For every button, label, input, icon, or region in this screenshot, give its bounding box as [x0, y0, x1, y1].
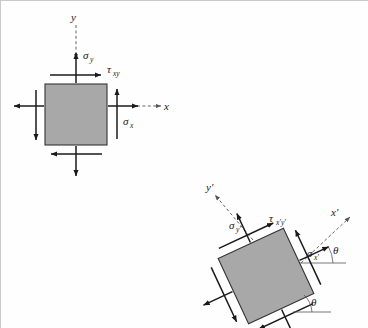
x-prime-axis-label: x′	[330, 206, 339, 218]
tau-x-prime-y-prime-label: τ	[269, 212, 274, 224]
sigma-x-subscript: x	[129, 121, 134, 130]
sigma-y-prime-label: σ	[229, 219, 235, 231]
unrotated-stress-element: y x σ y σ x τ xy	[14, 11, 169, 176]
tau-xy-subscript: xy	[112, 69, 120, 78]
sigma-x-prime-label: σ	[307, 247, 313, 259]
stress-element-figure: y x σ y σ x τ xy	[1, 1, 368, 328]
y-prime-axis-line	[215, 195, 253, 240]
sigma-y-label: σ	[83, 49, 89, 61]
figure-canvas: y x σ y σ x τ xy	[0, 0, 368, 328]
tau-xy-label: τ	[107, 63, 112, 75]
lower-theta-label: θ	[311, 296, 317, 308]
sigma-x-label: σ	[123, 115, 129, 127]
stress-element-square	[45, 84, 107, 145]
x-axis-label: x	[163, 100, 169, 112]
y-prime-axis-label: y′	[205, 181, 214, 193]
sigma-x-prime-subscript: x′	[313, 253, 319, 262]
upper-theta-label: θ	[333, 244, 339, 256]
sigma-y-prime-subscript: y′	[235, 225, 241, 234]
sigma-y-subscript: y	[89, 55, 94, 64]
rotated-stress-element: x′ θ y′	[174, 181, 357, 328]
y-axis-label: y	[70, 11, 76, 23]
tau-x-prime-y-prime-subscript: x′y′	[275, 218, 286, 227]
